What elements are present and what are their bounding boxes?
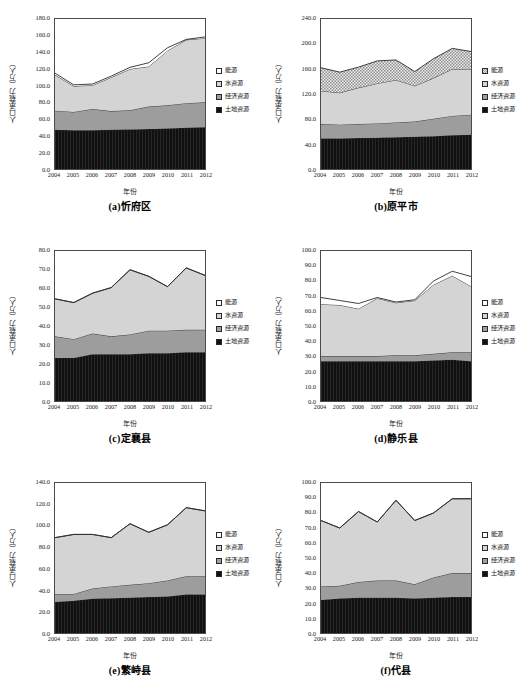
y-tick-label: 60.0 [305,540,316,547]
legend-item-energy: 能源 [482,64,532,77]
legend-swatch-economic-icon [482,94,488,100]
y-tick-label: 140.0 [35,49,50,56]
x-tick-label: 2008 [124,636,136,642]
y-tick-label: 240.0 [301,15,316,22]
legend-item-economic: 经济资源 [482,554,532,567]
chart-legend: 能源水资源经济资源土地资源 [482,296,532,348]
x-tick-label: 2006 [86,636,98,642]
legend-label: 能源 [491,299,503,305]
legend-swatch-energy-icon [216,532,222,538]
legend-item-energy: 能源 [216,528,266,541]
x-tick-label: 2009 [143,404,155,410]
y-tick-label: 20.0 [39,150,50,157]
legend-item-land: 土地资源 [482,103,532,116]
legend-label: 水资源 [491,544,509,550]
x-tick-label: 2012 [466,172,478,178]
chart-panel-a: 人口承载力（万人）0.020.040.060.080.0100.0120.014… [0,0,266,232]
x-tick-label: 2006 [352,636,364,642]
y-tick-label: 60.0 [305,308,316,315]
panel-caption: (c)定襄县 [40,430,220,445]
legend-swatch-land-icon [216,339,222,345]
y-tick-label: 40.0 [39,133,50,140]
y-tick-label: 100.0 [301,479,316,486]
x-tick-label: 2004 [48,404,60,410]
y-tick-label: 20.0 [305,368,316,375]
x-tick-label: 2008 [390,404,402,410]
y-axis-ticks: 0.020.040.060.080.0100.0120.0140.0 [18,482,52,634]
x-axis-label: 年份 [320,186,472,196]
y-tick-label: 80.0 [305,509,316,516]
legend-label: 经济资源 [225,557,249,563]
legend-swatch-water-icon [216,313,222,319]
y-tick-label: 30.0 [39,342,50,349]
legend-swatch-water-icon [482,545,488,551]
legend-item-water: 水资源 [216,541,266,554]
y-tick-label: 70.0 [39,266,50,273]
legend-item-water: 水资源 [216,309,266,322]
x-axis-ticks: 200420052006200720082009201020112012 [54,404,206,416]
legend-label: 水资源 [225,544,243,550]
y-tick-label: 40.0 [39,323,50,330]
y-tick-label: 40.0 [39,587,50,594]
x-tick-label: 2009 [409,172,421,178]
y-tick-label: 200.0 [301,40,316,47]
y-tick-label: 80.0 [39,247,50,254]
x-axis-label: 年份 [54,418,206,428]
plot-area [54,482,206,634]
legend-swatch-economic-icon [482,326,488,332]
x-tick-label: 2009 [143,172,155,178]
y-tick-label: 100.0 [35,522,50,529]
x-tick-label: 2011 [447,172,459,178]
y-tick-label: 120.0 [35,500,50,507]
y-tick-label: 80.0 [305,116,316,123]
y-axis-ticks: 0.040.080.0120.0160.0200.0240.0 [284,18,318,170]
y-axis-ticks: 0.010.020.030.040.050.060.070.080.090.01… [284,482,318,634]
area-band-水资源 [55,268,205,339]
x-tick-label: 2005 [67,636,79,642]
x-tick-label: 2006 [352,172,364,178]
chart-legend: 能源水资源经济资源土地资源 [216,528,266,580]
x-tick-label: 2005 [67,404,79,410]
x-tick-label: 2008 [124,172,136,178]
legend-label: 水资源 [225,80,243,86]
x-tick-label: 2004 [48,636,60,642]
x-tick-label: 2006 [86,404,98,410]
y-tick-label: 70.0 [305,292,316,299]
x-tick-label: 2011 [181,172,193,178]
legend-swatch-land-icon [482,339,488,345]
x-tick-label: 2007 [371,172,383,178]
x-tick-label: 2012 [466,404,478,410]
x-tick-label: 2012 [200,404,212,410]
legend-label: 土地资源 [491,570,515,576]
plot-area [320,18,472,170]
y-tick-label: 10.0 [305,616,316,623]
x-tick-label: 2007 [105,404,117,410]
legend-swatch-water-icon [482,313,488,319]
y-tick-label: 120.0 [301,91,316,98]
x-tick-label: 2011 [447,636,459,642]
x-tick-label: 2009 [143,636,155,642]
legend-item-economic: 经济资源 [216,322,266,335]
legend-swatch-water-icon [482,81,488,87]
x-tick-label: 2010 [428,636,440,642]
x-tick-label: 2011 [181,404,193,410]
chart-panel-d: 人口承载力（万人）0.010.020.030.040.050.060.070.0… [266,232,532,464]
legend-item-economic: 经济资源 [482,322,532,335]
legend-swatch-water-icon [216,545,222,551]
legend-item-energy: 能源 [482,296,532,309]
panel-caption: (a)忻府区 [40,198,220,213]
y-tick-label: 160.0 [35,32,50,39]
legend-item-energy: 能源 [216,296,266,309]
x-tick-label: 2010 [428,172,440,178]
x-axis-ticks: 200420052006200720082009201020112012 [54,172,206,184]
legend-label: 土地资源 [491,106,515,112]
legend-label: 能源 [491,67,503,73]
y-tick-label: 180.0 [35,15,50,22]
x-tick-label: 2009 [409,636,421,642]
x-tick-label: 2010 [162,636,174,642]
x-tick-label: 2007 [371,404,383,410]
legend-swatch-energy-icon [482,300,488,306]
y-tick-label: 120.0 [35,65,50,72]
legend-item-water: 水资源 [216,77,266,90]
x-tick-label: 2005 [333,636,345,642]
